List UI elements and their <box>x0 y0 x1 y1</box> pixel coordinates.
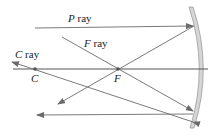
p-ray-reflected <box>58 26 194 104</box>
center-of-curvature-point <box>33 67 37 71</box>
focal-point <box>116 67 120 71</box>
c-ray <box>12 62 193 122</box>
f-ray-label: F ray <box>83 37 108 49</box>
ray-word: ray <box>91 37 108 49</box>
focal-point-label: F <box>113 72 121 84</box>
c-ray-label: C ray <box>15 48 40 60</box>
center-of-curvature-label: C <box>31 72 39 84</box>
p-ray-incident <box>35 26 193 28</box>
ray-diagram: P ray F ray C ray C F <box>0 0 217 137</box>
p-ray-label: P ray <box>67 12 92 24</box>
ray-word: ray <box>75 12 92 24</box>
ray-word: ray <box>22 48 39 60</box>
